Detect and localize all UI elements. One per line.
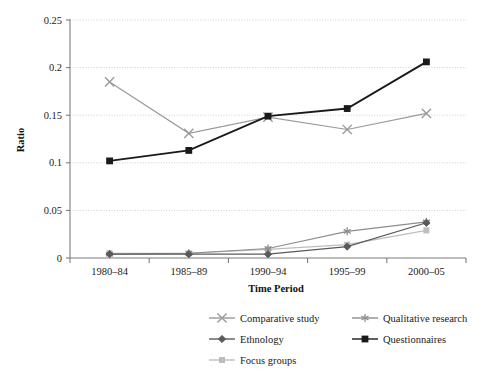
data-point (362, 336, 367, 341)
series-line (110, 62, 427, 161)
data-point (422, 109, 431, 118)
x-tick-label: 1990–94 (250, 266, 288, 277)
square-marker (362, 336, 367, 341)
data-point (186, 148, 191, 153)
data-point (184, 129, 193, 138)
data-point (220, 358, 225, 363)
line-chart: 00.050.10.150.20.25 1980–841985–891990–9… (0, 0, 491, 388)
y-tick-label: 0.2 (49, 62, 62, 73)
legend-label: Qualitative research (383, 313, 468, 324)
square-marker (424, 59, 429, 64)
square-marker (424, 228, 429, 233)
data-point (107, 158, 112, 163)
y-tick-label: 0 (57, 253, 62, 264)
legend-label: Focus groups (240, 355, 296, 366)
series-comparative-study (105, 77, 431, 138)
x-axis-title: Time Period (248, 283, 304, 294)
diamond-marker (218, 335, 225, 342)
legend-item[interactable]: Ethnology (209, 334, 284, 345)
legend-label: Questionnaires (383, 334, 446, 345)
square-marker (220, 358, 225, 363)
x-tick-label: 2000–05 (408, 266, 445, 277)
y-axis-ticks: 00.050.10.150.20.25 (44, 15, 70, 264)
square-marker (107, 158, 112, 163)
y-axis-title: Ratio (15, 128, 26, 153)
legend: Comparative studyQualitative researchEth… (209, 313, 468, 366)
data-point (265, 113, 270, 118)
x-tick-label: 1985–89 (170, 266, 207, 277)
legend-label: Ethnology (240, 334, 284, 345)
data-point (345, 106, 350, 111)
data-series (105, 59, 431, 258)
legend-item[interactable]: Qualitative research (352, 313, 468, 324)
x-tick-label: 1995–99 (329, 266, 366, 277)
chart-canvas: 00.050.10.150.20.25 1980–841985–891990–9… (0, 0, 491, 388)
data-point (424, 59, 429, 64)
legend-label: Comparative study (240, 313, 320, 324)
square-marker (265, 113, 270, 118)
y-tick-label: 0.15 (44, 110, 62, 121)
data-point (105, 77, 114, 86)
square-marker (186, 148, 191, 153)
square-marker (345, 106, 350, 111)
axes (70, 19, 466, 258)
data-point (424, 228, 429, 233)
legend-item[interactable]: Questionnaires (352, 334, 446, 345)
x-axis-ticks: 1980–841985–891990–941995–992000–05 (70, 258, 466, 277)
x-tick-label: 1980–84 (91, 266, 129, 277)
data-point (218, 335, 225, 342)
y-tick-label: 0.1 (49, 157, 62, 168)
y-tick-label: 0.25 (44, 15, 62, 26)
legend-item[interactable]: Comparative study (209, 313, 320, 324)
legend-item[interactable]: Focus groups (209, 355, 296, 366)
y-tick-label: 0.05 (44, 205, 62, 216)
